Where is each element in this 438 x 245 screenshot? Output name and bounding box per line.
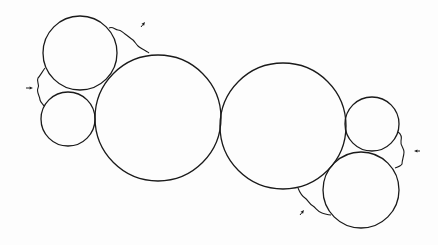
arrow-bottom-icon: [300, 210, 304, 215]
circle-left-lower-small: [41, 92, 95, 146]
circle-left-large: [95, 55, 221, 181]
wave-right: [395, 132, 404, 168]
circles-group: [41, 16, 399, 228]
circle-right-lower-small: [323, 152, 399, 228]
circle-right-large: [220, 63, 346, 189]
circle-left-upper-small: [43, 16, 117, 90]
wave-left: [37, 68, 45, 106]
arrows-group: [26, 22, 420, 215]
circle-right-upper-small: [345, 97, 399, 151]
circle-packing-diagram: [0, 0, 438, 245]
arrow-left-icon: [26, 86, 33, 89]
arrow-top-icon: [141, 22, 145, 27]
arrow-right-icon: [414, 149, 420, 152]
